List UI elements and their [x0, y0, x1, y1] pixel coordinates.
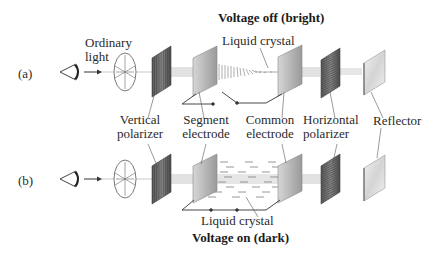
label-line: polarizer — [303, 127, 365, 141]
segment-electrode-a — [193, 46, 217, 96]
row-label-b: (b) — [18, 174, 33, 187]
horizontal-polarizer-b — [321, 154, 340, 204]
unpolarized-light-icon — [114, 53, 136, 91]
label-common-electrode: Common electrode — [242, 113, 298, 140]
common-electrode-b — [278, 154, 302, 203]
circuit-wires-b — [182, 200, 280, 211]
label-line: Vertical — [110, 113, 170, 127]
common-electrode-a — [278, 45, 302, 96]
arrow-icon — [84, 177, 102, 182]
label-liquid-crystal-top: Liquid crystal — [222, 34, 295, 47]
title-voltage-on: Voltage on (dark) — [192, 230, 289, 246]
unpolarized-light-icon — [114, 160, 136, 198]
label-horizontal-polarizer: Horizontal polarizer — [303, 113, 365, 140]
leader-lines-b — [148, 128, 381, 217]
twisted-liquid-crystal — [219, 64, 280, 80]
label-line: Segment — [178, 113, 234, 127]
eye-icon — [60, 64, 79, 80]
label-line: Horizontal — [303, 113, 365, 127]
label-light: light — [85, 50, 109, 63]
label-line: electrode — [242, 127, 298, 141]
label-reflector: Reflector — [373, 114, 421, 127]
vertical-polarizer-a — [152, 46, 171, 97]
label-liquid-crystal-bottom: Liquid crystal — [201, 214, 274, 227]
label-line: polarizer — [110, 127, 170, 141]
label-line: electrode — [178, 127, 234, 141]
vertical-polarizer-b — [152, 154, 171, 204]
eye-icon — [60, 171, 79, 187]
row-b — [60, 128, 385, 217]
label-line: Common — [242, 113, 298, 127]
label-vertical-polarizer: Vertical polarizer — [110, 113, 170, 140]
label-ordinary: Ordinary — [85, 36, 132, 49]
lcd-diagram: Voltage off (bright) Voltage on (dark) (… — [0, 0, 434, 258]
reflector-a — [364, 50, 385, 95]
horizontal-polarizer-a — [321, 48, 340, 98]
leader-lines-a — [148, 48, 383, 118]
arrow-icon — [84, 70, 102, 75]
label-segment-electrode: Segment electrode — [178, 113, 234, 140]
row-label-a: (a) — [18, 67, 32, 80]
segment-electrode-b — [193, 154, 217, 203]
reflector-b — [364, 155, 385, 201]
title-voltage-off: Voltage off (bright) — [218, 10, 324, 26]
